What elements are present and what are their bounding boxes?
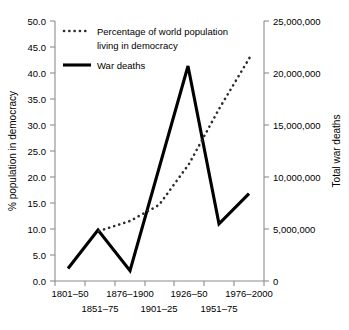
right-tick-label: 5,000,000 <box>273 224 315 235</box>
x-tick-label: 1951–75 <box>201 303 238 314</box>
right-tick-label: 25,000,000 <box>273 16 321 27</box>
right-axis-tick-labels: 0 5,000,000 10,000,000 15,000,000 20,000… <box>273 16 321 287</box>
left-tick-label: 35.0 <box>28 94 47 105</box>
series-war-deaths <box>68 66 249 271</box>
left-tick-label: 40.0 <box>28 68 47 79</box>
chart-container: 0.0 5.0 10.0 15.0 20.0 25.0 30.0 35.0 40… <box>0 0 349 330</box>
left-tick-label: 5.0 <box>33 250 46 261</box>
left-axis-tick-labels: 0.0 5.0 10.0 15.0 20.0 25.0 30.0 35.0 40… <box>28 16 47 287</box>
left-tick-label: 25.0 <box>28 146 47 157</box>
left-axis-ticks <box>50 21 55 281</box>
left-tick-label: 50.0 <box>28 16 47 27</box>
left-tick-label: 20.0 <box>28 172 47 183</box>
right-tick-label: 0 <box>273 276 278 287</box>
legend-label-democracy-line2: living in democracy <box>97 40 178 51</box>
legend-label-war-deaths: War deaths <box>97 60 145 71</box>
right-tick-label: 15,000,000 <box>273 120 321 131</box>
x-tick-label: 1976–2000 <box>225 288 273 299</box>
left-tick-label: 15.0 <box>28 198 47 209</box>
x-tick-label: 1901–25 <box>141 303 178 314</box>
right-axis-title: Total war deaths <box>331 115 342 188</box>
legend-item-democracy[interactable]: Percentage of world population living in… <box>64 26 228 51</box>
legend: Percentage of world population living in… <box>63 26 228 71</box>
left-tick-label: 10.0 <box>28 224 47 235</box>
left-tick-label: 30.0 <box>28 120 47 131</box>
x-tick-label: 1851–75 <box>82 303 119 314</box>
chart-svg: 0.0 5.0 10.0 15.0 20.0 25.0 30.0 35.0 40… <box>0 0 349 330</box>
x-tick-label: 1801–50 <box>52 288 89 299</box>
legend-item-war-deaths[interactable]: War deaths <box>63 60 145 71</box>
axes-group <box>55 21 264 281</box>
x-axis-ticks <box>55 281 264 286</box>
left-tick-label: 0.0 <box>33 276 46 287</box>
left-tick-label: 45.0 <box>28 42 47 53</box>
legend-label-democracy-line1: Percentage of world population <box>97 26 228 37</box>
right-tick-label: 20,000,000 <box>273 68 321 79</box>
x-tick-label: 1926–50 <box>171 288 208 299</box>
x-axis-tick-labels: 1801–50 1851–75 1876–1900 1901–25 1926–5… <box>52 288 273 314</box>
x-tick-label: 1876–1900 <box>106 288 154 299</box>
right-tick-label: 10,000,000 <box>273 172 321 183</box>
left-axis-title: % population in democracy <box>7 91 18 211</box>
series-democracy-percentage <box>99 57 250 231</box>
right-axis-ticks <box>264 21 269 281</box>
